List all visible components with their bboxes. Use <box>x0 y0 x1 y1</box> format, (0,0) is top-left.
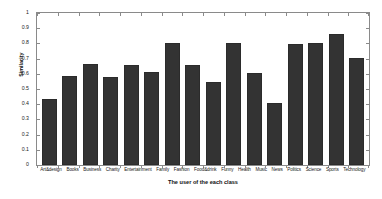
bar <box>165 43 180 165</box>
y-tick-label: 0 <box>0 162 29 167</box>
bar <box>42 99 57 165</box>
x-tick-label: Books <box>66 168 78 178</box>
x-tick-label: Funny <box>221 168 233 178</box>
bar <box>124 65 139 165</box>
y-tick-label: 0.9 <box>0 26 29 31</box>
x-tick-label: Politics <box>287 168 301 178</box>
bar <box>62 76 77 165</box>
y-tick-label: 0.1 <box>0 147 29 152</box>
x-tick-label: Entertainment <box>124 168 151 178</box>
y-tick-label: 0.3 <box>0 117 29 122</box>
x-tick-label: Health <box>238 168 251 178</box>
bar <box>247 73 262 165</box>
bar <box>206 82 221 165</box>
x-tick-label: Science <box>306 168 322 178</box>
bar <box>288 44 303 165</box>
y-tick-label: 0.2 <box>0 132 29 137</box>
x-tick-label: Music <box>255 168 267 178</box>
x-tick-label: Technology <box>343 168 365 178</box>
bar <box>267 103 282 165</box>
x-axis-tick-labels: Art&designBooksBusinessCharityEntertainm… <box>36 168 370 178</box>
bar-chart-figure: Similarity 00.10.20.30.40.50.60.70.80.91… <box>0 0 382 199</box>
x-tick-label: Business <box>83 168 101 178</box>
x-tick-label: Art&design <box>40 168 61 178</box>
y-tick-label: 0.6 <box>0 71 29 76</box>
bar <box>226 43 241 165</box>
bar <box>103 77 118 165</box>
y-tick-label: 0.8 <box>0 41 29 46</box>
bars-container <box>37 13 369 165</box>
bar <box>83 64 98 165</box>
x-tick-label: Fashion <box>174 168 190 178</box>
bar <box>185 65 200 165</box>
x-tick-label: Food&drink <box>194 168 217 178</box>
x-axis-title: The user of the each class <box>36 180 370 186</box>
bar <box>308 43 323 165</box>
x-tick-label: Sports <box>326 168 339 178</box>
y-tick-label: 0.5 <box>0 86 29 91</box>
bar <box>349 58 364 165</box>
x-tick-label: Charity <box>106 168 120 178</box>
y-tick-label: 0.4 <box>0 102 29 107</box>
x-tick-label: News <box>272 168 283 178</box>
bar <box>329 34 344 165</box>
bar <box>144 72 159 165</box>
plot-area: 00.10.20.30.40.50.60.70.80.91 <box>36 12 370 166</box>
x-tick-label: Family <box>156 168 169 178</box>
y-tick-label: 0.7 <box>0 56 29 61</box>
y-tick-label: 1 <box>0 10 29 15</box>
